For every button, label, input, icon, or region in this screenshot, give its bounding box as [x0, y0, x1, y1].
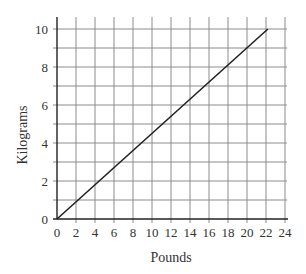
x-tick-label: 8 — [130, 225, 137, 240]
x-tick-label: 24 — [279, 225, 293, 240]
x-tick-label: 12 — [165, 225, 178, 240]
x-tick-label: 14 — [184, 225, 198, 240]
y-tick-label: 2 — [42, 174, 49, 189]
x-tick-label: 4 — [92, 225, 99, 240]
y-tick-label: 10 — [35, 22, 48, 37]
x-tick-label: 22 — [260, 225, 273, 240]
y-tick-label: 8 — [42, 60, 49, 75]
y-axis-label: Kilograms — [15, 105, 30, 164]
x-tick-label: 6 — [111, 225, 118, 240]
line-chart: 024681012141618202224 0246810 Pounds Kil… — [0, 0, 306, 274]
x-tick-label: 2 — [73, 225, 80, 240]
x-tick-labels: 024681012141618202224 — [54, 225, 292, 240]
grid-lines — [53, 17, 287, 223]
x-tick-label: 18 — [222, 225, 235, 240]
y-tick-label: 0 — [42, 212, 49, 227]
x-tick-label: 0 — [54, 225, 61, 240]
x-tick-label: 16 — [203, 225, 217, 240]
y-tick-label: 6 — [42, 98, 49, 113]
y-tick-labels: 0246810 — [35, 22, 49, 227]
y-tick-label: 4 — [42, 136, 49, 151]
x-tick-label: 10 — [146, 225, 159, 240]
x-axis-label: Pounds — [150, 250, 191, 265]
x-tick-label: 20 — [241, 225, 254, 240]
